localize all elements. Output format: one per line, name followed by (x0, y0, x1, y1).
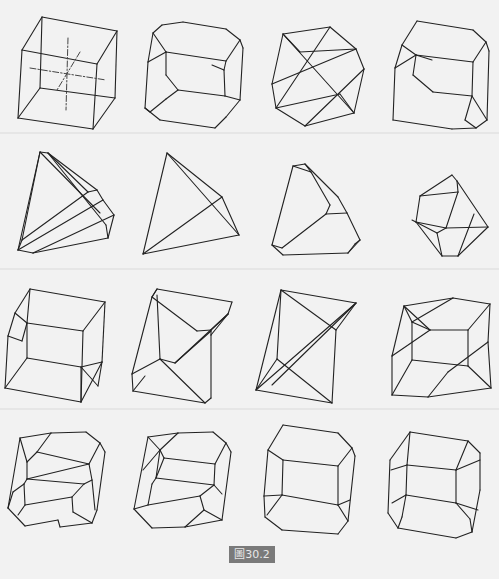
edge-line (224, 61, 226, 70)
edge-line (228, 302, 232, 314)
edge-line (272, 34, 283, 84)
edge-line (300, 49, 356, 52)
edge-line (42, 17, 117, 31)
edge-line (30, 289, 105, 302)
edge-line (134, 505, 148, 509)
edge-line (412, 220, 437, 233)
edge-line (214, 485, 222, 494)
crystal-diagram (0, 0, 499, 579)
edge-line (213, 432, 226, 443)
edge-line (72, 484, 84, 497)
edge-line (256, 390, 332, 403)
edge-line (268, 425, 283, 450)
edge-line (27, 358, 81, 367)
edge-line (157, 289, 232, 302)
edge-line (37, 452, 89, 464)
crystal-r4c4 (388, 432, 480, 538)
edge-line (88, 190, 97, 192)
edge-line (22, 17, 42, 50)
edge-line (338, 433, 352, 448)
edge-line (392, 395, 428, 397)
edge-line (456, 532, 472, 538)
edge-line (72, 497, 73, 512)
edge-line (25, 520, 58, 526)
edge-line (22, 192, 88, 240)
edge-line (20, 433, 51, 438)
edge-line (282, 460, 283, 495)
edge-line (347, 213, 360, 240)
edge-line (468, 366, 491, 388)
edge-line (81, 367, 98, 386)
crystal-r3c2 (132, 289, 232, 403)
edge-line (133, 376, 145, 391)
edge-line (13, 484, 24, 492)
edge-line (204, 510, 222, 520)
edge-line (48, 153, 88, 192)
edge-line (132, 297, 152, 374)
edge-line (93, 64, 97, 129)
edge-line (458, 227, 488, 256)
edge-line (272, 166, 293, 245)
figure-caption: 圖30.2 (229, 546, 275, 563)
edge-line (472, 96, 487, 120)
edge-line (282, 495, 338, 505)
edge-line (470, 519, 472, 532)
edge-line (175, 314, 228, 363)
edge-line (214, 464, 215, 485)
edge-line (8, 508, 25, 526)
edge-line (18, 88, 40, 118)
edge-line (433, 92, 472, 96)
edge-line (412, 322, 430, 330)
edge-line (200, 485, 214, 496)
crystal-r2c2 (143, 153, 239, 254)
edge-line (40, 17, 42, 88)
edge-line (465, 120, 476, 128)
edge-line (222, 452, 231, 520)
edge-line (148, 484, 152, 505)
edge-line (338, 500, 350, 505)
edge-line (338, 521, 348, 534)
edge-line (145, 108, 150, 112)
edge-line (15, 313, 27, 323)
axis-line (30, 68, 106, 80)
edge-line (8, 313, 15, 336)
edge-line (393, 68, 395, 120)
edge-line (264, 450, 268, 496)
edge-line (446, 227, 488, 228)
edge-line (465, 96, 472, 120)
edge-line (281, 290, 356, 303)
edge-line (256, 303, 356, 390)
crystal-r3c4 (392, 298, 491, 397)
edge-line (148, 433, 178, 437)
edge-line (97, 31, 117, 64)
edge-line (428, 388, 491, 397)
edge-line (340, 94, 354, 113)
edge-line (404, 306, 430, 330)
edge-line (265, 517, 282, 530)
edge-line (148, 437, 160, 450)
edge-line (97, 190, 103, 200)
edge-line (446, 192, 458, 228)
edge-line (18, 50, 22, 118)
edge-line (354, 69, 364, 113)
edge-line (338, 505, 348, 521)
edge-line (89, 443, 100, 464)
edge-line (406, 495, 456, 503)
edge-line (18, 505, 25, 515)
edge-line (33, 238, 108, 253)
edge-line (458, 214, 474, 256)
edge-line (476, 120, 487, 128)
edge-line (162, 22, 183, 25)
edge-line (18, 200, 103, 250)
edge-line (92, 480, 95, 510)
edge-line (226, 40, 240, 61)
edge-line (452, 128, 476, 129)
edge-line (488, 342, 491, 388)
edge-line (18, 118, 93, 129)
crystal-r3c1 (5, 289, 105, 402)
edge-line (5, 336, 8, 388)
edge-line (152, 289, 157, 297)
edge-line (332, 330, 336, 403)
edge-line (84, 480, 92, 484)
edge-line (473, 30, 486, 42)
